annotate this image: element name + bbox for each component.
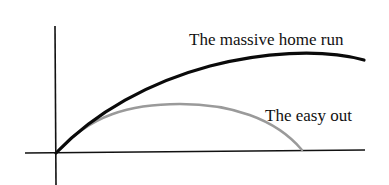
home-run-curve (56, 53, 364, 153)
trajectory-diagram: The massive home run The easy out (0, 0, 389, 185)
x-axis (25, 150, 365, 153)
y-axis (55, 26, 56, 185)
easy-out-label: The easy out (265, 107, 352, 124)
home-run-label: The massive home run (189, 31, 343, 48)
trajectory-plot (0, 0, 389, 185)
